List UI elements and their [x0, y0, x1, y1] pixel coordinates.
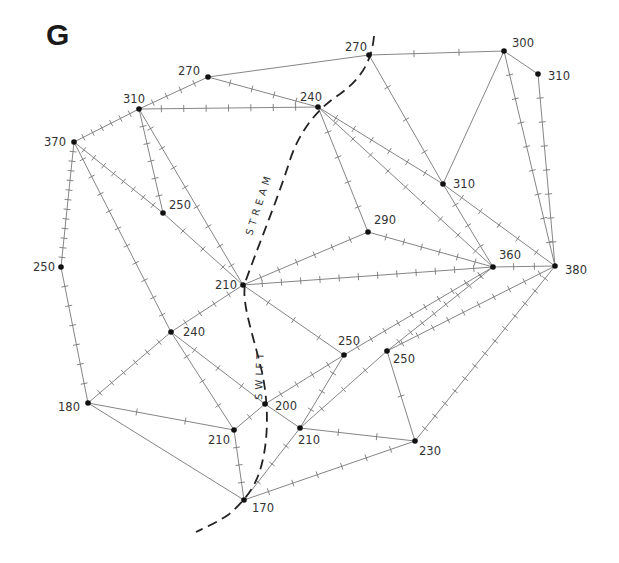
- contour-tick: [159, 313, 165, 316]
- node-elevation-label: 240: [300, 90, 322, 104]
- node-elevation-label: 310: [548, 69, 570, 83]
- contour-tick: [215, 404, 221, 408]
- node-point: [262, 401, 268, 407]
- contour-tick: [184, 355, 190, 359]
- contour-tick: [110, 120, 113, 126]
- node-elevation-label: 370: [44, 135, 66, 149]
- contour-tick: [150, 296, 156, 299]
- node-elevation-label: 250: [338, 334, 360, 348]
- contour-tick: [205, 225, 211, 229]
- contour-tick: [330, 371, 336, 375]
- node-point: [231, 427, 237, 433]
- contour-tick: [317, 335, 321, 341]
- node-elevation-label: 290: [374, 213, 396, 227]
- contour-tick: [478, 244, 484, 248]
- contour-network-diagram: STREAM SWIFT 270310370250250210240180210…: [0, 0, 619, 563]
- contour-tick: [266, 300, 270, 306]
- contour-tick: [194, 205, 200, 209]
- contour-tick: [462, 376, 467, 380]
- contour-tick: [89, 175, 95, 178]
- node-point: [552, 263, 558, 269]
- contour-tick: [522, 301, 527, 305]
- node-point: [315, 104, 321, 110]
- contour-tick: [396, 320, 400, 326]
- contour-tick: [59, 257, 66, 258]
- node-point: [205, 74, 211, 80]
- edge-240-310: [318, 107, 443, 184]
- node-point: [341, 352, 347, 358]
- contour-tick: [452, 389, 457, 393]
- edge-300-310: [443, 51, 504, 184]
- contour-tick: [151, 202, 155, 207]
- contour-tick: [68, 170, 75, 171]
- contour-tick: [401, 340, 404, 346]
- contour-tick: [269, 462, 275, 466]
- contour-tick: [460, 195, 464, 201]
- contour-tick: [538, 271, 541, 277]
- contour-tick: [478, 209, 482, 215]
- node-elevation-label: 250: [393, 352, 415, 366]
- contour-tick: [541, 146, 548, 147]
- contour-tick: [547, 218, 554, 219]
- edge-310-210: [139, 109, 243, 285]
- contour-tick: [492, 294, 495, 300]
- edge-250-380: [387, 266, 555, 351]
- edge-250-360: [387, 267, 493, 351]
- contour-tick: [128, 111, 131, 117]
- contour-tick: [91, 129, 94, 135]
- contour-tick: [97, 192, 103, 195]
- contour-tick: [435, 268, 436, 275]
- edge-270-270: [208, 55, 369, 77]
- contour-tick: [358, 273, 359, 280]
- contour-tick: [423, 304, 427, 310]
- contour-tick: [283, 444, 289, 448]
- contour-tick: [397, 339, 401, 344]
- contour-tick: [492, 339, 497, 343]
- edge-300-310: [504, 51, 538, 74]
- contour-tick: [352, 126, 356, 132]
- edge-240-180: [88, 332, 171, 403]
- contour-tick: [262, 280, 263, 287]
- contour-tick: [61, 238, 68, 239]
- contour-tick: [542, 276, 547, 280]
- node-point: [168, 329, 174, 335]
- contour-tick: [295, 381, 299, 387]
- contour-tick: [70, 151, 77, 152]
- contour-tick: [148, 127, 154, 131]
- contour-tick: [472, 364, 477, 368]
- node-elevation-label: 250: [169, 198, 191, 212]
- contour-tick: [300, 277, 301, 284]
- contour-tick: [534, 250, 538, 256]
- contour-tick: [432, 414, 437, 418]
- node-elevation-label: 380: [565, 263, 587, 277]
- contour-tick: [159, 146, 165, 150]
- contour-tick: [383, 328, 387, 334]
- contour-tick: [420, 320, 424, 325]
- node-elevation-label: 310: [453, 177, 475, 191]
- contour-tick: [141, 279, 147, 282]
- contour-tick: [212, 301, 216, 307]
- contour-tick: [136, 409, 137, 416]
- contour-tick: [451, 288, 455, 294]
- contour-tick: [233, 447, 240, 448]
- contour-tick: [447, 317, 450, 323]
- contour-tick: [281, 279, 282, 286]
- edge-370-250: [74, 142, 163, 213]
- node-layer: 2703103702502502102401802102002101702502…: [33, 36, 587, 515]
- edge-210-240: [171, 285, 243, 332]
- contour-tick: [444, 302, 448, 307]
- node-point: [490, 264, 496, 270]
- contour-tick: [423, 170, 427, 176]
- contour-tick: [516, 236, 520, 242]
- node-point: [160, 210, 166, 216]
- node-point: [366, 52, 372, 58]
- contour-tick: [292, 317, 296, 323]
- contour-tick: [410, 312, 414, 318]
- contour-tick: [141, 194, 145, 199]
- contour-tick: [67, 180, 74, 181]
- contour-tick: [377, 272, 378, 279]
- contour-tick: [124, 244, 130, 247]
- contour-tick: [106, 209, 112, 212]
- node-point: [85, 400, 91, 406]
- contour-tick: [80, 158, 86, 161]
